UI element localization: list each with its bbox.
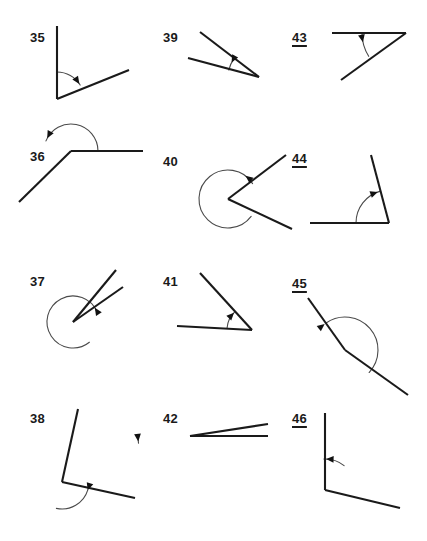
angle-arc [356,191,380,223]
figure-number-36: 36 [30,150,45,163]
angle-arc [46,124,98,151]
figure-number-35: 35 [30,31,45,44]
ray-upper-left [308,298,345,350]
arc-arrowhead-icon [134,434,141,442]
figure-number-45: 45 [292,277,307,290]
worksheet-page: 353943364044374145384246 [0,0,427,541]
fig-37 [47,270,123,348]
ray-left [188,58,259,77]
arc-arrowhead-icon [326,456,334,463]
arc-arrowhead-icon [358,34,365,42]
ray-lower-right [228,199,292,229]
angle-arc [56,490,87,509]
fig-38 [56,409,135,509]
ray-upper-left [200,273,252,330]
figure-number-41: 41 [163,275,178,288]
ray-lower-left [341,33,406,80]
figure-number-40: 40 [163,155,178,168]
ray-left-horizontal [177,326,252,330]
ray-up [371,155,389,223]
fig-40 [199,155,292,229]
figure-number-39: 39 [163,31,178,44]
fig-39 [188,32,259,77]
figure-number-42: 42 [163,412,178,425]
arc-arrowhead-icon [95,308,102,316]
angle-arc [47,296,97,348]
fig-43 [332,33,406,80]
ray-lower-right [325,490,400,508]
ray-lower-right [62,482,135,498]
ray-upper-left [200,32,259,77]
fig-42 [134,424,268,443]
figure-number-38: 38 [30,412,45,425]
angle-figures-layer [0,0,427,541]
figure-number-44: 44 [292,152,307,165]
angle-arc [199,170,253,228]
arc-arrowhead-icon [317,324,325,331]
arc-arrowhead-icon [226,313,234,321]
fig-44 [310,155,389,223]
fig-41 [177,273,252,330]
fig-46 [324,413,400,508]
ray-upper-right [228,155,286,199]
figure-number-37: 37 [30,275,45,288]
ray-right-slight-up [190,424,268,436]
fig-35 [57,26,129,99]
fig-45 [308,298,408,395]
ray-lower-left [19,151,71,202]
angle-arc [326,317,378,373]
figure-number-43: 43 [292,31,307,44]
figure-number-46: 46 [292,412,307,425]
ray-up [62,409,78,482]
arc-arrowhead-icon [370,191,378,197]
angle-arc [324,459,344,466]
ray-lower-right [345,350,408,395]
